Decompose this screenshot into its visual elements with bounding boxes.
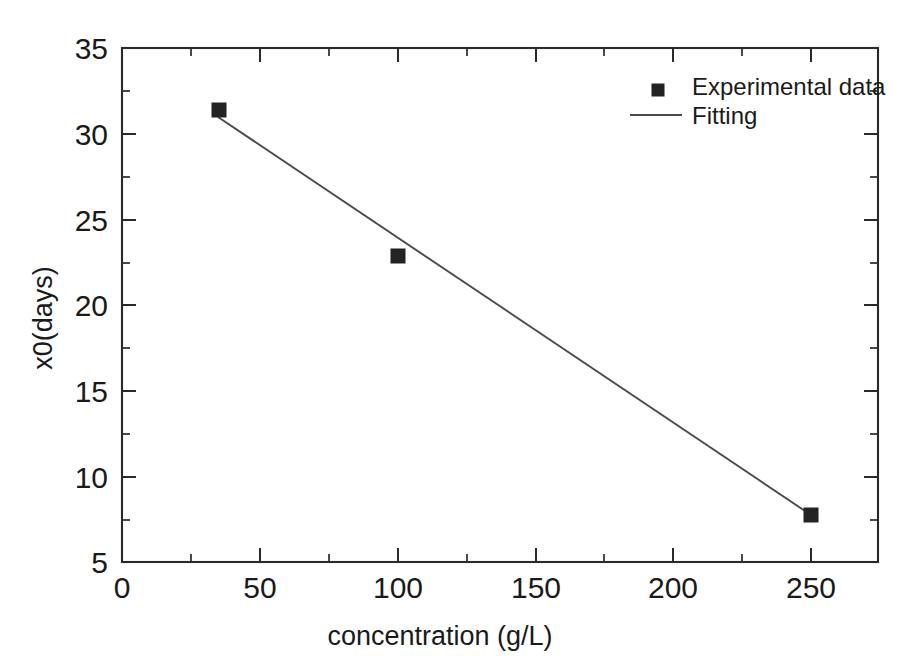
x-axis-title: concentration (g/L) xyxy=(327,621,552,651)
scatter-plot-svg: 35 30 25 20 15 10 5 0 50 100 150 200 250… xyxy=(0,0,922,667)
y-tick-label-30: 30 xyxy=(75,118,108,151)
data-point-2 xyxy=(391,249,405,263)
data-point-1 xyxy=(212,103,226,117)
y-tick-label-10: 10 xyxy=(75,461,108,494)
legend-label-experimental-data: Experimental data xyxy=(692,73,886,100)
y-axis-right-major-ticks xyxy=(864,134,878,477)
y-tick-label-25: 25 xyxy=(75,204,108,237)
y-tick-label-15: 15 xyxy=(75,375,108,408)
y-axis-major-ticks xyxy=(122,48,136,562)
x-tick-label-200: 200 xyxy=(648,571,698,604)
y-tick-label-20: 20 xyxy=(75,289,108,322)
x-tick-label-100: 100 xyxy=(373,571,423,604)
x-axis-top-minor-ticks xyxy=(191,48,742,56)
y-tick-label-5: 5 xyxy=(91,546,108,579)
legend-marker-square-icon xyxy=(652,84,664,96)
legend-label-fitting: Fitting xyxy=(692,102,757,129)
data-point-3 xyxy=(804,508,818,522)
chart-figure: 35 30 25 20 15 10 5 0 50 100 150 200 250… xyxy=(0,0,922,667)
fitting-line xyxy=(218,117,811,515)
x-tick-label-150: 150 xyxy=(511,571,561,604)
x-tick-label-50: 50 xyxy=(243,571,276,604)
chart-legend: Experimental data Fitting xyxy=(630,73,886,129)
x-axis-minor-ticks xyxy=(191,554,742,562)
x-tick-label-250: 250 xyxy=(786,571,836,604)
x-tick-label-0: 0 xyxy=(114,571,131,604)
y-tick-label-35: 35 xyxy=(75,32,108,65)
x-axis-top-major-ticks xyxy=(260,48,811,62)
y-axis-title: x0(days) xyxy=(28,266,58,370)
